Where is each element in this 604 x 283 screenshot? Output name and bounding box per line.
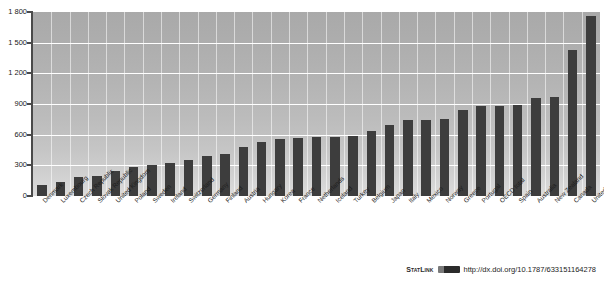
y-tick-label: 900 xyxy=(0,100,27,108)
bar xyxy=(476,106,486,196)
gridline-vertical xyxy=(545,12,546,196)
y-tick-label: 1 800 xyxy=(0,8,27,16)
y-tick-mark xyxy=(27,164,32,166)
statlink-url[interactable]: http://dx.doi.org/10.1787/633151164278 xyxy=(464,265,596,274)
statlink-footer: StatLink http://dx.doi.org/10.1787/63315… xyxy=(0,262,604,276)
gridline-vertical xyxy=(51,12,52,196)
gridline-vertical xyxy=(399,12,400,196)
gridline-vertical xyxy=(307,12,308,196)
plot-area xyxy=(33,12,600,196)
bar xyxy=(568,50,578,196)
bar-chart: 1 8001 5001 2009006003000 DenmarkLuxembo… xyxy=(0,0,604,283)
gridline-vertical xyxy=(88,12,89,196)
gridline-vertical xyxy=(362,12,363,196)
y-tick-label: 0 xyxy=(0,192,27,200)
y-tick-mark xyxy=(27,103,32,105)
gridline-vertical xyxy=(582,12,583,196)
gridline-vertical xyxy=(381,12,382,196)
gridline-vertical xyxy=(216,12,217,196)
y-tick-mark xyxy=(27,195,32,197)
gridline-horizontal xyxy=(33,43,600,44)
y-tick-label: 1 500 xyxy=(0,39,27,47)
y-tick-label: 600 xyxy=(0,131,27,139)
gridline-vertical xyxy=(179,12,180,196)
bar xyxy=(586,16,596,196)
gridline-vertical xyxy=(344,12,345,196)
gridline-vertical xyxy=(417,12,418,196)
gridline-vertical xyxy=(472,12,473,196)
bar xyxy=(403,120,413,196)
chart-title-clipped xyxy=(0,0,604,8)
gridline-vertical xyxy=(252,12,253,196)
statlink-label: StatLink xyxy=(406,266,433,273)
bar xyxy=(367,131,377,196)
y-tick-label: 1 200 xyxy=(0,69,27,77)
gridline-vertical xyxy=(563,12,564,196)
gridline-horizontal xyxy=(33,73,600,74)
gridline-vertical xyxy=(326,12,327,196)
gridline-vertical xyxy=(454,12,455,196)
y-tick-mark xyxy=(27,11,32,13)
gridline-vertical xyxy=(70,12,71,196)
gridline-vertical xyxy=(271,12,272,196)
gridline-vertical xyxy=(490,12,491,196)
y-tick-mark xyxy=(27,42,32,44)
bar xyxy=(440,119,450,196)
gridline-vertical xyxy=(435,12,436,196)
y-tick-label: 300 xyxy=(0,161,27,169)
gridline-vertical xyxy=(234,12,235,196)
bar xyxy=(531,98,541,196)
bar xyxy=(421,120,431,196)
gridline-vertical xyxy=(509,12,510,196)
gridline-vertical xyxy=(289,12,290,196)
bar xyxy=(293,138,303,196)
gridline-vertical xyxy=(198,12,199,196)
gridline-vertical xyxy=(527,12,528,196)
statlink-badge-icon xyxy=(438,266,460,273)
y-tick-mark xyxy=(27,134,32,136)
y-tick-mark xyxy=(27,72,32,74)
gridline-vertical xyxy=(161,12,162,196)
